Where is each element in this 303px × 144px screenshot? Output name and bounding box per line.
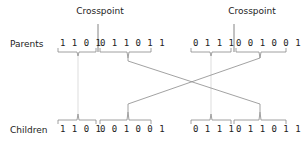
child1-head-bits: 1 1 0 1 <box>60 124 101 134</box>
crosspoint-label-right: Crosspoint <box>228 6 276 16</box>
parents-label: Parents <box>10 39 44 49</box>
parent1-tail-bracket <box>100 48 151 58</box>
children-label: Children <box>10 125 47 135</box>
child2-tail-bracket <box>234 112 286 124</box>
crosspoint-label-left: Crosspoint <box>76 6 124 16</box>
crossover-diagram: Crosspoint Crosspoint Parents Children 1… <box>0 0 303 144</box>
child1-head-bracket <box>58 114 96 124</box>
child2-head-bracket <box>191 114 231 124</box>
child2-head-bits: 0 1 1 1 <box>193 124 234 134</box>
parent1-tail-to-child2-connector <box>128 58 260 112</box>
parent1-head-bracket <box>58 48 96 56</box>
parent1-tail-bits: 0 1 1 0 1 1 <box>100 38 165 48</box>
parent2-head-bracket <box>191 48 231 56</box>
parent2-tail-bits: 0 0 1 0 0 1 <box>236 38 301 48</box>
parent1-head-bits: 1 1 0 1 <box>60 38 101 48</box>
child1-tail-bracket <box>100 112 151 124</box>
parent2-tail-bracket <box>236 48 286 58</box>
parent2-tail-to-child1-connector <box>128 58 260 112</box>
child1-tail-bits: 0 0 1 0 0 1 <box>100 124 165 134</box>
parent2-head-bits: 0 1 1 1 <box>193 38 234 48</box>
child2-tail-bits: 0 1 1 0 1 1 <box>236 124 301 134</box>
